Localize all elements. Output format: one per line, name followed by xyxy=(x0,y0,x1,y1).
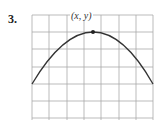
vertex-point xyxy=(91,30,95,34)
parabola-curve xyxy=(32,32,153,84)
point-label: (x, y) xyxy=(70,11,93,21)
